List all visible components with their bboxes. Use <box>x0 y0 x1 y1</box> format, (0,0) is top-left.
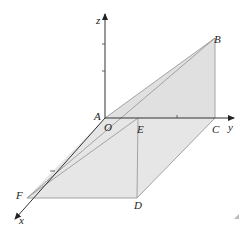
point-label-b: B <box>214 33 221 45</box>
point-label-f: F <box>15 189 23 201</box>
point-label-d: D <box>133 199 142 211</box>
point-label-o: O <box>104 121 112 133</box>
point-label-e: E <box>136 123 144 135</box>
axis-label-y: y <box>227 121 233 133</box>
point-label-a: A <box>93 110 101 122</box>
axis-label-z: z <box>95 14 101 26</box>
corner-mark-icon <box>234 214 239 219</box>
axis-label-x: x <box>18 214 24 226</box>
geometry-diagram: z y x A O E C B F D <box>0 0 243 227</box>
point-label-c: C <box>212 123 220 135</box>
